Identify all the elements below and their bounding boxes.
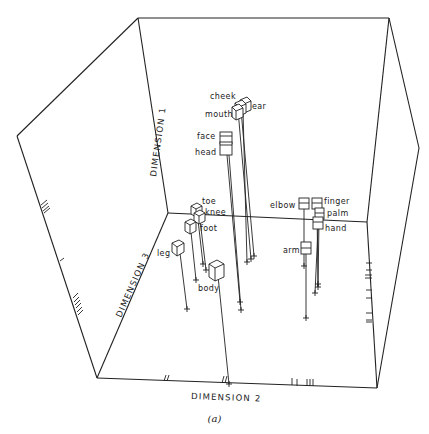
mds-3d-figure: DIMENSION 1 DIMENSION 2 DIMENSION 3 [0, 0, 429, 434]
label-knee: knee [205, 208, 226, 217]
cube-head [220, 142, 232, 155]
plot-canvas: DIMENSION 1 DIMENSION 2 DIMENSION 3 [0, 0, 429, 434]
cube-hand [313, 217, 323, 229]
axis-label-dimension-1: DIMENSION 1 [148, 106, 168, 177]
label-body: body [198, 284, 219, 293]
box-frame [17, 18, 419, 388]
cube-finger [312, 198, 322, 209]
point-labels: cheek ear mouth face head toe knee foot … [157, 92, 350, 293]
label-arm: arm [283, 246, 300, 255]
figure-caption: (a) [0, 413, 429, 424]
label-mouth: mouth [205, 110, 233, 119]
cube-elbow [299, 198, 309, 209]
axis-label-dimension-2: DIMENSION 2 [191, 391, 262, 403]
base-markers [184, 253, 321, 387]
cube-body [209, 260, 224, 281]
label-toe: toe [202, 197, 216, 206]
label-face: face [197, 132, 216, 141]
cube-leg [172, 240, 184, 256]
cube-mouth [232, 104, 243, 120]
axis-label-dimension-3: DIMENSION 3 [114, 250, 152, 318]
cube-arm [301, 242, 311, 254]
label-palm: palm [327, 209, 349, 218]
label-finger: finger [324, 197, 350, 206]
label-elbow: elbow [270, 201, 296, 210]
label-cheek: cheek [210, 92, 236, 101]
cube-foot [185, 219, 196, 234]
label-ear: ear [252, 102, 267, 111]
label-foot: foot [200, 224, 217, 233]
label-head: head [195, 148, 217, 157]
label-leg: leg [157, 249, 170, 258]
label-hand: hand [325, 224, 347, 233]
